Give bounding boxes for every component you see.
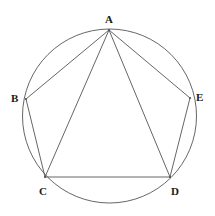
vertex-dot-layer — [25, 29, 191, 178]
vertex-label-d: D — [171, 186, 179, 197]
diagonal-AD — [109, 30, 170, 177]
vertex-label-b: B — [11, 93, 18, 104]
side-DE — [170, 98, 190, 177]
geometry-canvas — [0, 0, 215, 216]
geometry-figure: ABCDE — [0, 0, 215, 216]
vertex-point-c — [44, 176, 46, 178]
diagonal-AC — [45, 30, 109, 177]
vertex-label-a: A — [105, 14, 113, 25]
vertex-point-a — [108, 29, 110, 31]
vertex-point-d — [169, 176, 171, 178]
vertex-label-c: C — [39, 186, 47, 197]
side-AB — [26, 30, 109, 99]
side-EA — [109, 30, 190, 98]
vertex-point-b — [25, 98, 27, 100]
vertex-point-e — [189, 97, 191, 99]
vertex-label-e: E — [196, 92, 203, 103]
side-BC — [26, 99, 45, 177]
